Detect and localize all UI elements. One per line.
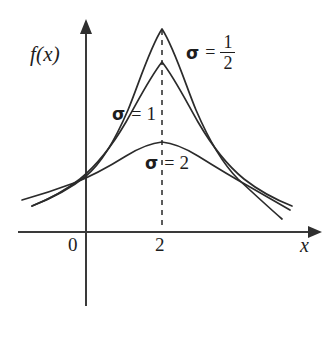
x-axis-label: x: [300, 235, 309, 255]
arrow-up-icon: [80, 19, 92, 34]
x-tick-label-2: 2: [155, 235, 165, 254]
sigma-value: 2: [179, 152, 189, 174]
equals-symbol: =: [205, 42, 215, 63]
equals-symbol: =: [131, 104, 141, 125]
fraction-numerator: 1: [221, 33, 234, 52]
x-tick-label-0: 0: [68, 235, 78, 254]
fraction-one-half: 1 2: [220, 33, 235, 72]
gaussian-curves-figure: f(x) x 0 2 σ = 1 2 σ = 1 σ = 2: [0, 0, 336, 338]
sigma-symbol: σ: [186, 43, 199, 63]
sigma-symbol: σ: [145, 153, 158, 173]
annotation-sigma-two: σ = 2: [145, 152, 189, 174]
annotation-sigma-half: σ = 1 2: [186, 33, 235, 72]
sigma-value: 1: [146, 103, 156, 125]
curve-sigma-half: [32, 29, 282, 219]
arrow-right-icon: [308, 226, 322, 238]
fraction-denominator: 2: [221, 53, 234, 72]
equals-symbol: =: [164, 153, 174, 174]
y-axis: [80, 19, 92, 306]
sigma-symbol: σ: [112, 104, 125, 124]
y-axis-label: f(x): [30, 44, 60, 65]
x-axis: [18, 226, 322, 238]
annotation-sigma-one: σ = 1: [112, 103, 156, 125]
